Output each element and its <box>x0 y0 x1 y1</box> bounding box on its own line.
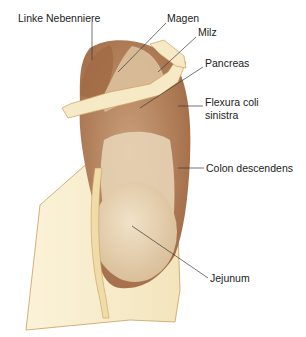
label-flexura-coli: Flexura coli <box>205 96 259 108</box>
label-magen: Magen <box>167 12 199 24</box>
jejunum-mass <box>93 182 177 282</box>
label-flexura-coli-sinistra: sinistra <box>205 109 238 121</box>
label-pancreas: Pancreas <box>205 57 249 69</box>
label-linke-nebenniere: Linke Nebenniere <box>18 12 100 24</box>
label-jejunum: Jejunum <box>210 272 250 284</box>
label-colon-descendens: Colon descendens <box>206 162 293 174</box>
label-milz: Milz <box>198 26 217 38</box>
